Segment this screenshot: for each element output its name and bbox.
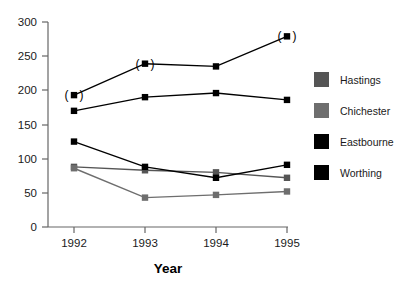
y-tick-label-0: 0 (31, 221, 37, 233)
x-tick-label-1995: 1995 (274, 237, 300, 249)
chart-svg: 300 250 200 150 100 50 0 1992 1993 1994 … (0, 0, 410, 288)
data-point-marker (71, 92, 77, 98)
data-point-marker (284, 33, 290, 39)
data-point-marker (213, 175, 219, 181)
data-point-marker (142, 60, 148, 66)
legend-swatch (314, 165, 329, 180)
data-point-marker (284, 162, 290, 168)
legend-label: Worthing (340, 167, 382, 179)
legend-item-chichester[interactable]: Chichester (314, 103, 391, 118)
data-point-marker (213, 169, 219, 175)
legend-swatch (314, 72, 329, 87)
bracket-annotation: ( (136, 57, 140, 71)
bracket-annotation: ) (293, 29, 297, 43)
x-tick-label-1992: 1992 (61, 237, 87, 249)
y-tick-label-100: 100 (18, 153, 37, 165)
legend-item-hastings[interactable]: Hastings (314, 72, 381, 87)
legend-item-worthing[interactable]: Worthing (314, 165, 382, 180)
y-tick-label-50: 50 (24, 187, 37, 199)
legend-label: Chichester (340, 105, 391, 117)
legend-item-eastbourne[interactable]: Eastbourne (314, 134, 394, 149)
data-point-marker (284, 175, 290, 181)
legend-swatch (314, 134, 329, 149)
y-tick-label-250: 250 (18, 50, 37, 62)
bracket-annotation: ) (151, 57, 155, 71)
x-axis-title: Year (154, 261, 183, 276)
data-point-marker (142, 164, 148, 170)
data-point-marker (284, 97, 290, 103)
data-point-marker (142, 194, 148, 200)
legend-swatch (314, 103, 329, 118)
line-chart-figure: 300 250 200 150 100 50 0 1992 1993 1994 … (0, 0, 410, 288)
data-point-marker (142, 94, 148, 100)
data-point-marker (71, 138, 77, 144)
x-tick-label-1994: 1994 (203, 237, 229, 249)
data-point-marker (284, 188, 290, 194)
legend-label: Hastings (340, 74, 381, 86)
data-point-marker (213, 90, 219, 96)
bracket-annotation: ( (278, 29, 282, 43)
data-point-marker (71, 108, 77, 114)
data-point-marker (71, 165, 77, 171)
data-point-marker (213, 63, 219, 69)
x-tick-label-1993: 1993 (132, 237, 158, 249)
data-point-marker (213, 192, 219, 198)
y-tick-label-200: 200 (18, 84, 37, 96)
y-tick-label-150: 150 (18, 119, 37, 131)
bracket-annotation: ( (65, 88, 69, 102)
y-tick-label-300: 300 (18, 16, 37, 28)
legend-label: Eastbourne (340, 136, 394, 148)
bracket-annotation: ) (80, 88, 84, 102)
